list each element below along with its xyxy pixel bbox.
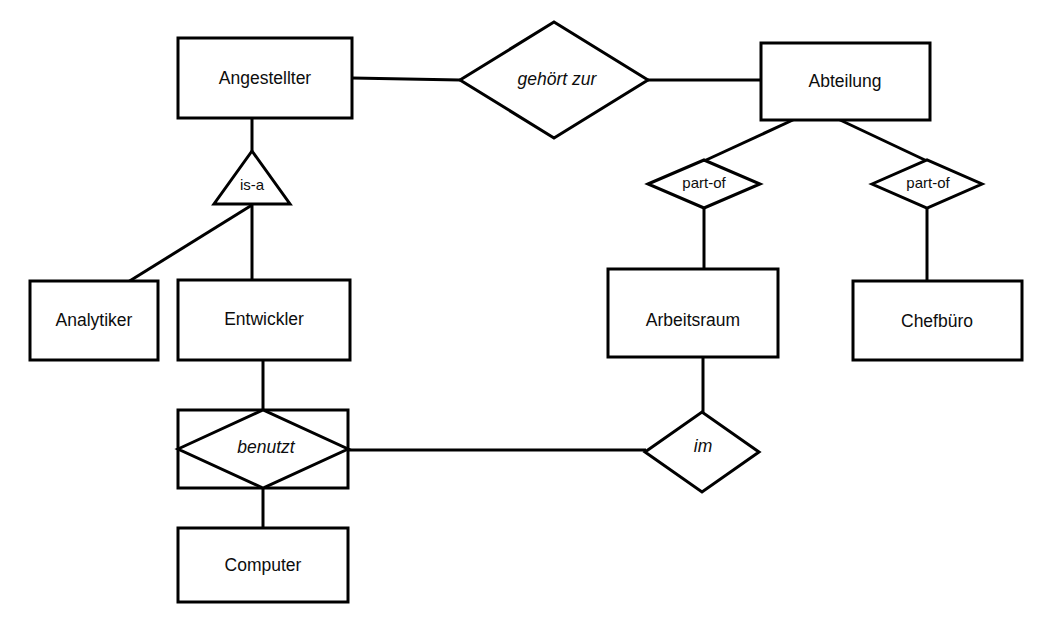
entity-entwickler[interactable]: Entwickler (178, 280, 350, 360)
entity-angestellter[interactable]: Angestellter (178, 38, 352, 118)
entity-abteilung[interactable]: Abteilung (761, 43, 930, 120)
relationship-part-of-chefbuero-label: part-of (906, 174, 950, 191)
specialization-is-a-label: is-a (240, 176, 265, 193)
relationship-part-of-arbeitsraum[interactable]: part-of (648, 160, 760, 208)
entity-chefbuero-label: Chefbüro (901, 311, 973, 331)
connection-isa-analytiker (128, 205, 252, 282)
relationship-gehoert-zur[interactable]: gehört zur (460, 22, 648, 138)
relationship-benutzt-label: benutzt (237, 437, 296, 457)
er-diagram-canvas: Angestellter Abteilung Analytiker Entwic… (0, 0, 1044, 639)
entity-angestellter-label: Angestellter (219, 68, 312, 88)
entity-analytiker[interactable]: Analytiker (30, 281, 158, 360)
relationship-part-of-arbeitsraum-label: part-of (682, 174, 726, 191)
er-diagram-svg: Angestellter Abteilung Analytiker Entwic… (0, 0, 1044, 639)
relationship-gehoert-zur-label: gehört zur (518, 69, 598, 89)
entity-arbeitsraum[interactable]: Arbeitsraum (608, 269, 778, 357)
entity-chefbuero[interactable]: Chefbüro (853, 281, 1022, 360)
relationship-benutzt[interactable]: benutzt (178, 410, 348, 488)
entity-entwickler-label: Entwickler (224, 309, 304, 329)
connection-abteilung-part-of-left (704, 119, 795, 161)
connection-abteilung-part-of-right (838, 119, 927, 161)
relationship-im[interactable]: im (645, 412, 759, 492)
entity-arbeitsraum-label: Arbeitsraum (646, 310, 740, 330)
entity-computer[interactable]: Computer (178, 528, 348, 602)
entity-abteilung-label: Abteilung (809, 71, 882, 91)
relationship-im-label: im (694, 436, 712, 456)
entity-computer-label: Computer (225, 555, 302, 575)
entity-analytiker-label: Analytiker (56, 310, 133, 330)
specialization-is-a[interactable]: is-a (214, 151, 290, 204)
connection-angestellter-gehoert-zur (352, 78, 460, 80)
relationship-part-of-chefbuero[interactable]: part-of (872, 160, 982, 208)
